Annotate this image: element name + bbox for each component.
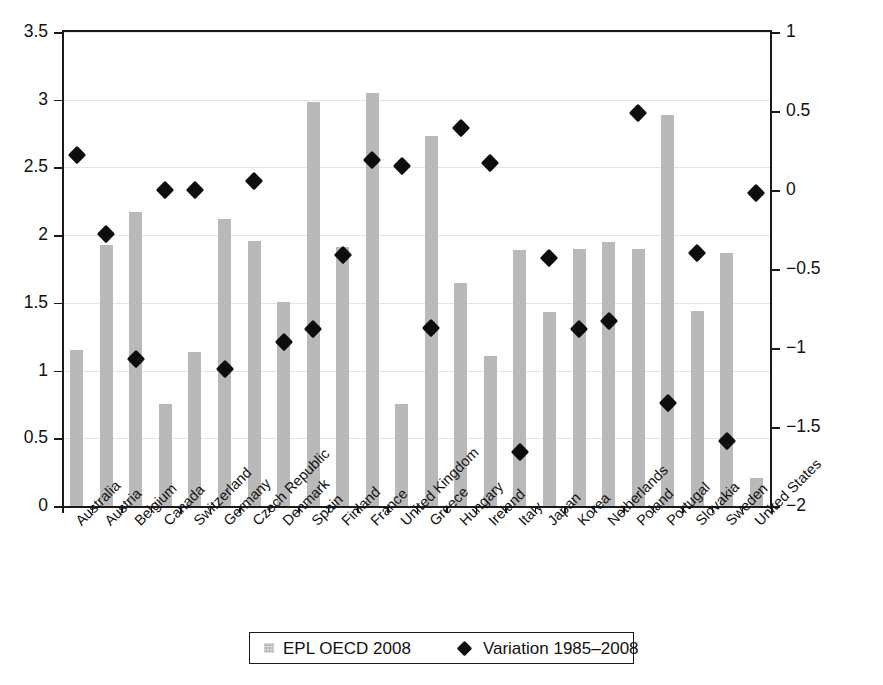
y-axis-right-tick-mark: [772, 111, 780, 113]
y-axis-left-tick-label: 1.5: [0, 294, 48, 312]
gridline: [62, 100, 771, 101]
bar: [307, 102, 320, 506]
y-axis-right-tick-mark: [772, 269, 780, 271]
marker-diamond: [97, 225, 115, 243]
marker-diamond: [68, 146, 86, 164]
gridline: [62, 32, 771, 33]
marker-diamond: [452, 119, 470, 137]
y-axis-right-tick-mark: [772, 427, 780, 429]
y-axis-left-tick-label: 2: [0, 226, 48, 244]
marker-diamond: [688, 244, 706, 262]
chart-legend: EPL OECD 2008 Variation 1985–2008: [249, 632, 634, 664]
chart-figure: 00.511.522.533.5 −2−1.5−1−0.500.51 Austr…: [0, 0, 883, 685]
y-axis-right-tick-label: −2: [786, 497, 846, 515]
plot-top-border: [62, 30, 772, 32]
marker-diamond: [245, 171, 263, 189]
y-axis-right-tick-mark: [772, 32, 780, 34]
bar: [248, 241, 261, 506]
marker-diamond: [747, 184, 765, 202]
y-axis-right-tick-label: −1: [786, 339, 846, 357]
x-axis-tick-mark: [62, 506, 64, 513]
y-axis-left-tick-label: 0: [0, 497, 48, 515]
bar: [691, 311, 704, 506]
legend-diamond-icon: [457, 640, 473, 656]
y-axis-left-tick-mark: [54, 32, 62, 34]
bar: [513, 250, 526, 506]
bar: [720, 253, 733, 506]
legend-item-variation[interactable]: Variation 1985–2008: [457, 640, 639, 657]
y-axis-left-tick-label: 3: [0, 91, 48, 109]
bar: [573, 249, 586, 506]
legend-square-icon: [264, 643, 274, 653]
y-axis-right-tick-label: 0.5: [786, 102, 846, 120]
legend-label-epl: EPL OECD 2008: [283, 640, 411, 657]
y-axis-right-tick-mark: [772, 190, 780, 192]
y-axis-left-tick-label: 2.5: [0, 158, 48, 176]
legend-label-variation: Variation 1985–2008: [483, 640, 639, 657]
y-axis-left-tick-label: 1: [0, 362, 48, 380]
legend-item-epl-oecd-2008[interactable]: EPL OECD 2008: [264, 640, 411, 657]
marker-diamond: [392, 157, 410, 175]
y-axis-left-line: [62, 30, 64, 508]
y-axis-right-tick-label: −1.5: [786, 418, 846, 436]
marker-diamond: [481, 154, 499, 172]
bar: [602, 242, 615, 506]
y-axis-left-tick-mark: [54, 438, 62, 440]
bar: [100, 245, 113, 506]
y-axis-left-tick-mark: [54, 100, 62, 102]
y-axis-left-tick-label: 3.5: [0, 23, 48, 41]
marker-diamond: [540, 249, 558, 267]
y-axis-left-tick-label: 0.5: [0, 429, 48, 447]
marker-diamond: [156, 181, 174, 199]
bar: [70, 350, 83, 506]
bar: [543, 312, 556, 506]
y-axis-left-tick-mark: [54, 506, 62, 508]
marker-diamond: [629, 103, 647, 121]
bar: [632, 249, 645, 506]
y-axis-right-tick-label: 1: [786, 23, 846, 41]
y-axis-left-tick-mark: [54, 235, 62, 237]
bar: [661, 115, 674, 506]
y-axis-right-tick-label: 0: [786, 181, 846, 199]
y-axis-right-tick-label: −0.5: [786, 260, 846, 278]
y-axis-right-tick-mark: [772, 348, 780, 350]
marker-diamond: [186, 181, 204, 199]
bar: [336, 247, 349, 506]
y-axis-left-tick-mark: [54, 167, 62, 169]
y-axis-left-tick-mark: [54, 303, 62, 305]
y-axis-left-tick-mark: [54, 371, 62, 373]
